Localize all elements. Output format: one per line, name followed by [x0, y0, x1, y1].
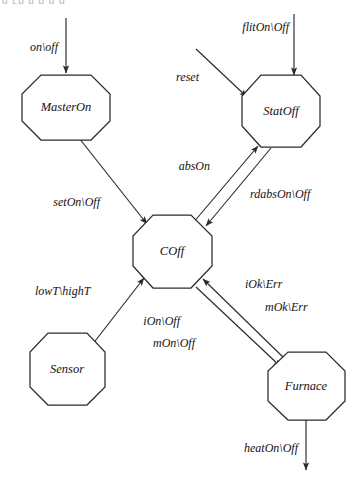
edge-reset-line: [196, 49, 247, 97]
node-statoff-label: StatOff: [263, 104, 300, 118]
edge-label-iok-err: iOk\Err: [245, 277, 283, 291]
edge-label-on-off: on\off: [30, 40, 60, 54]
node-furnace-label: Furnace: [284, 379, 328, 393]
edge-label-rdabs-on-off: rdabsOn\Off: [250, 187, 312, 201]
edge-label-heat-on-off: heatOn\Off: [244, 441, 300, 455]
edge-label-mon-off: mOn\Off: [153, 336, 197, 350]
diagram-svg: MasterOn StatOff COff Sensor Furnace on\…: [0, 0, 359, 484]
edge-iok-err-line: [203, 279, 286, 360]
edge-label-mok-err: mOk\Err: [265, 300, 308, 314]
edge-label-reset: reset: [176, 70, 200, 84]
node-coff-label: COff: [160, 244, 186, 258]
edge-label-flit-on-off: flitOn\Off: [242, 20, 290, 34]
edge-abs-on-line: [193, 146, 258, 223]
edge-label-abs-on: absOn: [179, 159, 210, 173]
edge-label-lowt-hight: lowT\highT: [35, 284, 92, 298]
edge-lowt-hight-line: [92, 278, 144, 345]
edge-label-set-on-off: setOn\Off: [53, 195, 101, 209]
node-sensor-label: Sensor: [50, 362, 84, 376]
edge-label-ion-off: iOn\Off: [143, 314, 181, 328]
state-diagram-canvas: a ca a a a a MasterOn: [0, 0, 359, 484]
node-masteron-label: MasterOn: [40, 100, 92, 114]
edge-set-on-off-line: [79, 138, 147, 224]
